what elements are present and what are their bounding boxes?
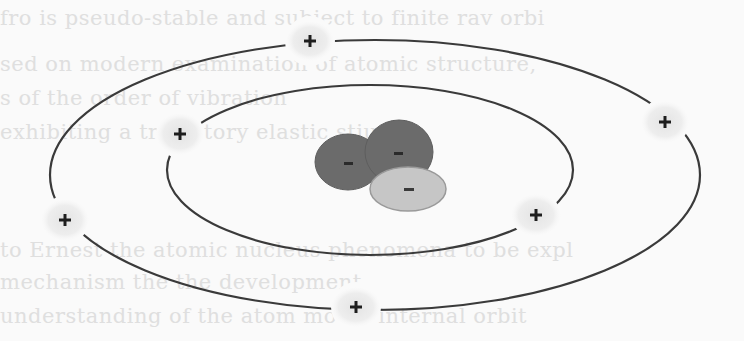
- minus-icon: [394, 152, 403, 155]
- particle-left-outer: [41, 196, 89, 244]
- particle-right-inner: [511, 191, 561, 239]
- minus-icon: [344, 162, 353, 165]
- particle-bottom: [331, 282, 381, 332]
- atom-diagram-page: fro is pseudo-stable and subject to fini…: [0, 0, 744, 341]
- particle-left-inner: [156, 110, 204, 158]
- particle-top: [285, 16, 335, 66]
- particle-right-outer: [641, 98, 689, 146]
- atom-figure: [0, 0, 744, 341]
- minus-icon: [404, 188, 414, 191]
- nucleus: [315, 120, 446, 211]
